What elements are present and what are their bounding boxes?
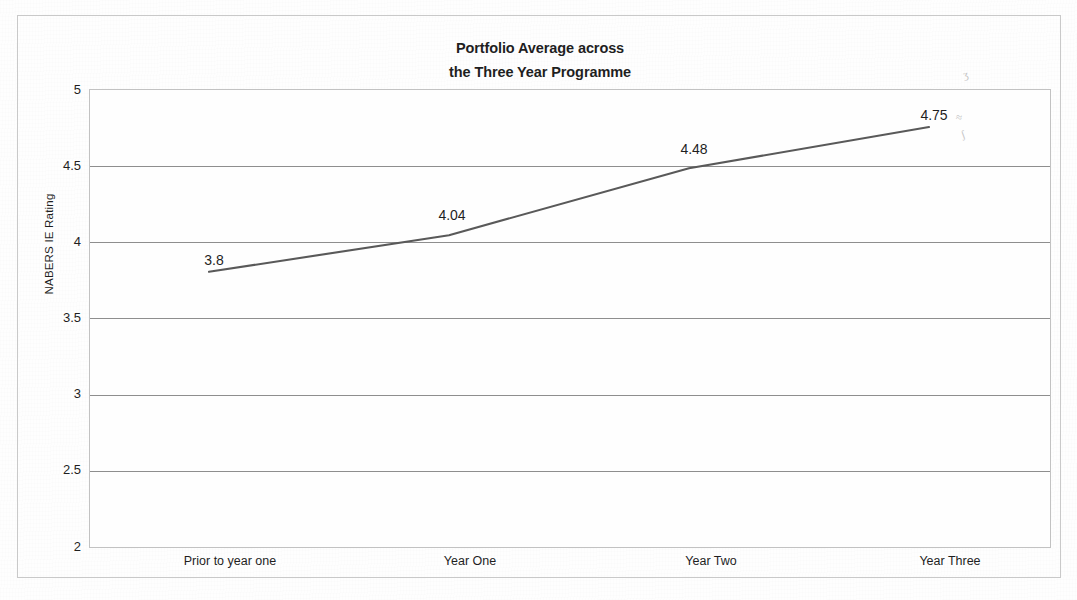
scanned-page: Portfolio Average across the Three Year …	[0, 0, 1077, 600]
data-label-prior-to-year-one: 3.8	[204, 252, 223, 268]
data-label-year-two: 4.48	[680, 141, 707, 157]
data-label-year-three: 4.75	[920, 107, 947, 123]
y-tick-5: 5	[21, 82, 81, 97]
chart-frame: Portfolio Average across the Three Year …	[17, 15, 1061, 578]
x-tick-prior-to-year-one: Prior to year one	[130, 554, 330, 568]
chart-title: Portfolio Average across the Three Year …	[18, 36, 1062, 84]
x-axis-category-labels: Prior to year one Year One Year Two Year…	[89, 554, 1049, 580]
x-tick-year-two: Year Two	[611, 554, 811, 568]
data-label-year-one: 4.04	[438, 207, 465, 223]
x-tick-year-three: Year Three	[850, 554, 1050, 568]
series-line-portfolio-average	[89, 89, 1049, 546]
y-axis-title: NABERS IE Rating	[43, 164, 55, 324]
chart-title-line-2: the Three Year Programme	[18, 60, 1062, 84]
y-tick-2-5: 2.5	[21, 462, 81, 477]
y-tick-3: 3	[21, 386, 81, 401]
y-tick-2: 2	[21, 539, 81, 554]
chart-title-line-1: Portfolio Average across	[18, 36, 1062, 60]
x-tick-year-one: Year One	[370, 554, 570, 568]
